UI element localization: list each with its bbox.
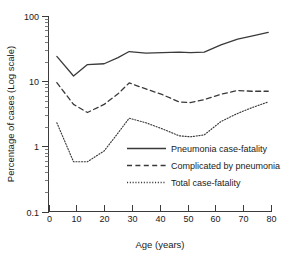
x-tick-label: 50 (183, 214, 193, 224)
y-tick-label: 1 (34, 142, 39, 152)
x-tick-label: 60 (210, 214, 220, 224)
x-tick-label: 0 (47, 214, 52, 224)
x-tick-label: 70 (238, 214, 248, 224)
line-chart: 0.1110100 01020304050607080 Pneumonia ca… (0, 0, 290, 255)
series-line (57, 32, 268, 76)
legend-label: Pneumonia case-fatality (171, 144, 268, 154)
series-line (57, 83, 268, 113)
legend-label: Complicated by pneumonia (171, 161, 280, 171)
x-axis-group: 01020304050607080 (47, 205, 277, 224)
y-tick-label: 100 (24, 12, 39, 22)
x-axis-title: Age (years) (135, 239, 184, 250)
y-axis-title: Percentage of cases (Log scale) (5, 46, 16, 182)
x-tick-label: 40 (155, 214, 165, 224)
x-tick-label: 20 (99, 214, 109, 224)
legend: Pneumonia case-fatalityComplicated by pn… (127, 144, 280, 188)
y-tick-label: 10 (29, 77, 39, 87)
chart-container: 0.1110100 01020304050607080 Pneumonia ca… (0, 0, 290, 255)
legend-label: Total case-fatality (171, 178, 241, 188)
y-axis-group: 0.1110100 (24, 12, 49, 218)
y-axis-tick-labels: 0.1110100 (24, 12, 39, 218)
x-axis-tick-labels: 01020304050607080 (47, 214, 277, 224)
x-tick-label: 10 (71, 214, 81, 224)
x-tick-label: 30 (127, 214, 137, 224)
y-tick-label: 0.1 (26, 208, 39, 218)
x-tick-label: 80 (266, 214, 276, 224)
data-series-group (57, 32, 268, 161)
x-axis-ticks (50, 205, 272, 212)
y-axis-major-ticks (42, 17, 49, 213)
y-axis-minor-ticks (45, 20, 49, 193)
